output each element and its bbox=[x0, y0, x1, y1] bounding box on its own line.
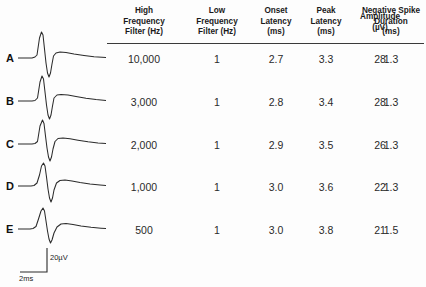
header-line-2: Latency bbox=[249, 17, 303, 28]
trace-row-label-e: E bbox=[6, 223, 14, 235]
header-line-1: Negative Spike bbox=[355, 6, 426, 17]
cell-a-high-frequency-filter: 10,000 bbox=[105, 53, 183, 65]
column-header-low-frequency-filter: Low Frequency Filter (Hz) bbox=[181, 6, 253, 38]
column-header-high-frequency-filter: High Frequency Filter (Hz) bbox=[105, 6, 183, 38]
cell-b-high-frequency-filter: 3,000 bbox=[105, 96, 183, 108]
column-header-peak-latency: Peak Latency (ms) bbox=[299, 6, 353, 38]
column-header-onset-latency: Onset Latency (ms) bbox=[249, 6, 303, 38]
trace-row-label-a: A bbox=[6, 52, 14, 64]
cell-d-peak-latency: 3.6 bbox=[299, 181, 353, 193]
cell-e-peak-latency: 3.8 bbox=[299, 224, 353, 236]
cell-d-low-frequency-filter: 1 bbox=[181, 181, 253, 193]
header-line-3: Filter (Hz) bbox=[105, 27, 183, 38]
scale-bar-voltage-label: 20µV bbox=[50, 253, 68, 262]
header-line-2: Frequency bbox=[181, 17, 253, 28]
cell-a-peak-latency: 3.3 bbox=[299, 53, 353, 65]
cell-c-high-frequency-filter: 2,000 bbox=[105, 139, 183, 151]
cell-c-low-frequency-filter: 1 bbox=[181, 139, 253, 151]
cell-c-peak-latency: 3.5 bbox=[299, 139, 353, 151]
header-line-1: Peak bbox=[299, 6, 353, 17]
header-line-3: (ms) bbox=[299, 27, 353, 38]
cell-b-low-frequency-filter: 1 bbox=[181, 96, 253, 108]
trace-row-label-d: D bbox=[6, 180, 14, 192]
header-line-3: (ms) bbox=[249, 27, 303, 38]
header-line-1: High bbox=[105, 6, 183, 17]
cell-a-low-frequency-filter: 1 bbox=[181, 53, 253, 65]
trace-panel: A B C D E 20µV 2ms bbox=[0, 0, 105, 287]
header-line-3: (ms) bbox=[355, 27, 426, 38]
cell-e-low-frequency-filter: 1 bbox=[181, 224, 253, 236]
cell-a-negative-spike-duration: 1.3 bbox=[355, 53, 426, 65]
header-line-1: Onset bbox=[249, 6, 303, 17]
cell-b-negative-spike-duration: 1.3 bbox=[355, 96, 426, 108]
header-line-2: Duration bbox=[355, 17, 426, 28]
header-line-2: Latency bbox=[299, 17, 353, 28]
cell-e-negative-spike-duration: 1.5 bbox=[355, 224, 426, 236]
column-header-negative-spike-duration: Negative Spike Duration (ms) bbox=[355, 6, 426, 38]
header-line-2: Frequency bbox=[105, 17, 183, 28]
cell-e-onset-latency: 3.0 bbox=[249, 224, 303, 236]
header-line-1: Low bbox=[181, 6, 253, 17]
cell-c-negative-spike-duration: 1.3 bbox=[355, 139, 426, 151]
header-line-3: Filter (Hz) bbox=[181, 27, 253, 38]
cell-d-onset-latency: 3.0 bbox=[249, 181, 303, 193]
table-header-rule bbox=[107, 43, 424, 44]
scale-bar-time-label: 2ms bbox=[19, 274, 33, 283]
cell-b-onset-latency: 2.8 bbox=[249, 96, 303, 108]
cell-e-high-frequency-filter: 500 bbox=[105, 224, 183, 236]
measurements-table: High Frequency Filter (Hz) Low Frequency… bbox=[105, 0, 426, 287]
waveform-figure: A B C D E 20µV 2ms bbox=[0, 0, 426, 287]
cell-d-high-frequency-filter: 1,000 bbox=[105, 181, 183, 193]
cell-d-negative-spike-duration: 1.3 bbox=[355, 181, 426, 193]
trace-row-label-b: B bbox=[6, 95, 14, 107]
cell-c-onset-latency: 2.9 bbox=[249, 139, 303, 151]
cell-b-peak-latency: 3.4 bbox=[299, 96, 353, 108]
cell-a-onset-latency: 2.7 bbox=[249, 53, 303, 65]
trace-row-label-c: C bbox=[6, 138, 14, 150]
